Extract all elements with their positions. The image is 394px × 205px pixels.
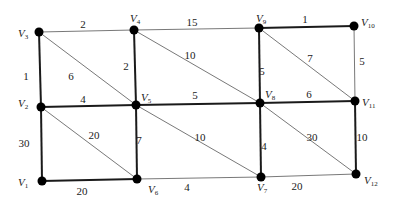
edge-weight-label: 1	[23, 70, 29, 82]
node-v11	[351, 97, 360, 106]
node-label-v4: V4	[130, 12, 141, 26]
node-v6	[133, 175, 142, 184]
node-label-v11: V11	[362, 96, 376, 110]
node-v1	[38, 177, 47, 186]
edge-weight-label: 30	[307, 131, 319, 143]
edge-weight-label: 4	[261, 140, 267, 152]
edge-weight-label: 5	[192, 89, 198, 101]
edge-v10-v11	[354, 26, 355, 101]
edge-weight-label: 10	[195, 131, 207, 143]
edge-weight-label: 6	[68, 70, 74, 82]
edge-weight-label: 10	[185, 49, 197, 61]
node-label-v6: V6	[148, 183, 159, 197]
node-v3	[35, 28, 44, 37]
edge-v2-v6	[41, 107, 137, 179]
node-label-v7: V7	[257, 181, 268, 195]
edge-weight-label: 4	[184, 181, 190, 193]
node-v8	[256, 99, 265, 108]
node-label-v8: V8	[265, 88, 276, 102]
edge-v4-v5	[134, 30, 136, 105]
edge-v5-v8	[136, 103, 260, 105]
edge-weight-label: 6	[306, 88, 312, 100]
edge-v3-v2	[39, 32, 41, 107]
edge-weight-label: 1	[302, 13, 308, 25]
node-label-v5: V5	[141, 91, 152, 105]
edge-weight-label: 15	[187, 16, 199, 28]
edge-weight-label: 7	[307, 52, 313, 64]
edge-weight-label: 7	[136, 134, 142, 146]
edge-v6-v7	[137, 177, 261, 179]
weighted-graph-diagram: 21511621057545630207104301020420 V1V2V3V…	[0, 0, 394, 205]
edge-weight-label: 20	[77, 185, 89, 197]
edge-v3-v5	[39, 32, 136, 105]
edge-weight-label: 20	[89, 129, 101, 141]
node-v5	[132, 101, 141, 110]
edge-weight-label: 10	[357, 131, 369, 143]
node-label-v12: V12	[364, 174, 378, 188]
edge-weight-label: 20	[292, 180, 304, 192]
node-v4	[130, 26, 139, 35]
edge-v1-v6	[42, 179, 137, 181]
node-label-v2: V2	[18, 97, 29, 111]
node-label-v10: V10	[361, 16, 375, 30]
edge-weight-label: 2	[80, 18, 86, 30]
edge-weight-label: 30	[19, 137, 31, 149]
edge-weight-label: 5	[359, 55, 365, 67]
node-v12	[352, 170, 361, 179]
edge-v2-v5	[41, 105, 136, 107]
edge-v2-v1	[41, 107, 42, 181]
node-label-v1: V1	[18, 176, 29, 190]
edges-layer	[39, 26, 356, 181]
edge-weight-label: 4	[80, 93, 86, 105]
edge-v7-v12	[261, 174, 356, 177]
edge-v4-v9	[134, 28, 259, 30]
node-label-v9: V9	[256, 12, 267, 26]
edge-v3-v4	[39, 30, 134, 32]
node-label-v3: V3	[18, 27, 29, 41]
node-v2	[37, 103, 46, 112]
edge-weight-label: 5	[259, 65, 265, 77]
node-v10	[350, 22, 359, 31]
edge-weight-label: 2	[123, 60, 129, 72]
edge-v9-v10	[259, 26, 354, 28]
